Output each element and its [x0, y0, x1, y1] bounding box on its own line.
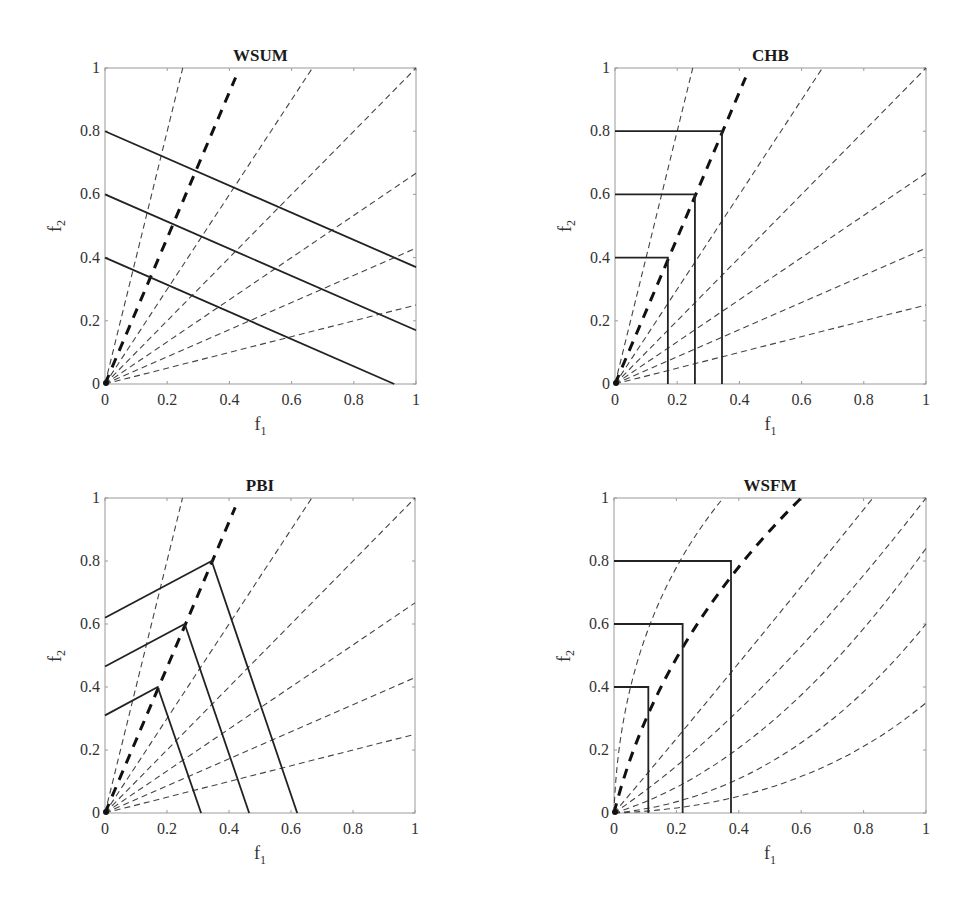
x-tick-label: 0.2	[666, 820, 686, 838]
x-tick-label: 0.8	[854, 820, 874, 838]
y-tick-label: 0.4	[589, 678, 609, 696]
chart-title: WSFM	[744, 476, 797, 496]
y-tick-label: 0	[601, 804, 609, 822]
y-tick-label: 0.2	[589, 741, 609, 759]
plot-area	[0, 0, 971, 914]
y-tick-label: 0.8	[589, 552, 609, 570]
x-tick-label: 0	[610, 820, 618, 838]
x-tick-label: 0.6	[791, 820, 811, 838]
x-tick-label: 1	[922, 820, 930, 838]
y-tick-label: 1	[601, 489, 609, 507]
x-tick-label: 0.4	[729, 820, 749, 838]
y-axis-label: f2	[554, 650, 579, 662]
y-tick-label: 0.6	[589, 615, 609, 633]
x-axis-label: f1	[764, 843, 776, 868]
